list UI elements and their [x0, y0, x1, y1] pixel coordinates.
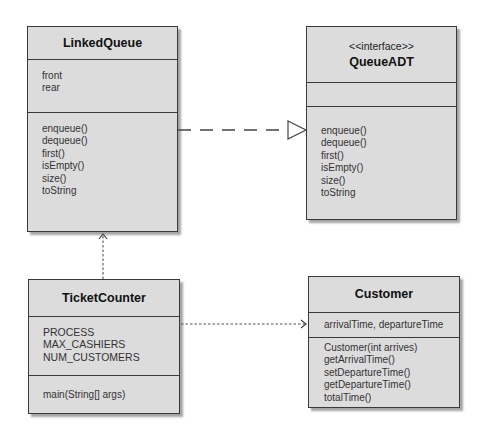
attribute: PROCESS [43, 326, 179, 338]
methods-section: Customer(int arrives) getArrivalTime() s… [309, 337, 459, 407]
method: totalTime() [324, 392, 459, 404]
method: toString [42, 185, 177, 197]
class-name: LinkedQueue [28, 27, 177, 59]
method: dequeue() [321, 137, 456, 149]
method: size() [42, 173, 177, 185]
attributes-section: arrivalTime, departureTime [309, 312, 459, 337]
method: isEmpty() [321, 162, 456, 174]
attribute: MAX_CASHIERS [43, 338, 179, 350]
method: main(String[] args) [43, 389, 179, 401]
class-customer[interactable]: Customer arrivalTime, departureTime Cust… [308, 276, 460, 408]
method: dequeue() [42, 135, 177, 147]
class-name: Customer [309, 277, 459, 312]
class-ticketcounter[interactable]: TicketCounter PROCESS MAX_CASHIERS NUM_C… [28, 279, 180, 414]
attribute: arrivalTime, departureTime [324, 319, 459, 331]
method: getDepartureTime() [324, 379, 459, 391]
attribute: front [42, 70, 177, 82]
realization-arrow [178, 121, 306, 139]
method: isEmpty() [42, 160, 177, 172]
method: getArrivalTime() [324, 354, 459, 366]
method: first() [321, 150, 456, 162]
method: setDepartureTime() [324, 367, 459, 379]
dependency-arrow-to-customer [181, 320, 306, 328]
methods-section: main(String[] args) [29, 375, 179, 413]
method: enqueue() [321, 125, 456, 137]
header-section: <<interface>> QueueADT [307, 27, 456, 82]
method: size() [321, 175, 456, 187]
class-name: QueueADT [307, 55, 456, 69]
class-linkedqueue[interactable]: LinkedQueue front rear enqueue() dequeue… [27, 26, 178, 232]
method: enqueue() [42, 123, 177, 135]
methods-section: enqueue() dequeue() first() isEmpty() si… [307, 106, 456, 219]
class-queueadt[interactable]: <<interface>> QueueADT enqueue() dequeue… [306, 26, 457, 220]
attributes-section: front rear [28, 59, 177, 112]
attributes-section [307, 82, 456, 106]
method: first() [42, 148, 177, 160]
methods-section: enqueue() dequeue() first() isEmpty() si… [28, 112, 177, 231]
stereotype-label: <<interface>> [307, 40, 456, 52]
method: toString [321, 187, 456, 199]
attributes-section: PROCESS MAX_CASHIERS NUM_CUSTOMERS [29, 316, 179, 375]
class-name: TicketCounter [29, 280, 179, 316]
method: Customer(int arrives) [324, 342, 459, 354]
attribute: rear [42, 82, 177, 94]
dependency-arrow-to-linkedqueue [99, 234, 107, 279]
attribute: NUM_CUSTOMERS [43, 351, 179, 363]
